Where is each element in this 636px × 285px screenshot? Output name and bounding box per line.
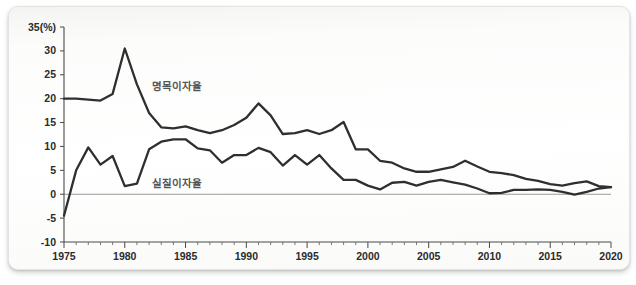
y-tick-label: 0 <box>50 188 56 200</box>
x-tick-label: 2015 <box>539 250 563 262</box>
chart-card: 35(%)302520151050-5-10197519801985199019… <box>8 6 630 270</box>
x-tick-label: 2010 <box>478 250 502 262</box>
y-tick-label: 35(%) <box>28 21 56 33</box>
y-tick-label: 25 <box>44 68 56 80</box>
y-tick-label: 15 <box>44 116 56 128</box>
x-tick-label: 2020 <box>599 250 623 262</box>
y-tick-label: 5 <box>50 164 56 176</box>
y-tick-label: -10 <box>41 236 56 248</box>
x-tick-label: 1990 <box>235 250 259 262</box>
interest-rate-line-chart: 35(%)302520151050-5-10197519801985199019… <box>9 7 629 269</box>
x-tick-label: 2005 <box>417 250 441 262</box>
real-rate-line <box>64 139 611 215</box>
y-tick-label: 20 <box>44 92 56 104</box>
nominal-rate-line <box>64 49 611 188</box>
x-tick-label: 1975 <box>52 250 76 262</box>
x-tick-label: 2000 <box>356 250 380 262</box>
x-tick-label: 1980 <box>113 250 137 262</box>
y-tick-label: 10 <box>44 140 56 152</box>
x-tick-label: 1995 <box>295 250 319 262</box>
real-rate-label: 실질이자율 <box>152 177 202 189</box>
y-tick-label: 30 <box>44 44 56 56</box>
y-tick-label: -5 <box>47 212 56 224</box>
nominal-rate-label: 명목이자율 <box>152 80 202 92</box>
x-tick-label: 1985 <box>174 250 198 262</box>
